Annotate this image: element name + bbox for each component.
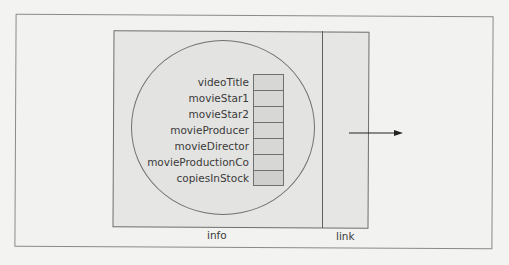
field-label: movieStar2	[189, 108, 253, 120]
field-cell	[253, 154, 284, 170]
field-label: videoTitle	[198, 76, 253, 88]
link-label: link	[336, 230, 355, 242]
field-cell	[253, 90, 284, 106]
field-row: copiesInStock	[140, 170, 284, 186]
field-cell	[253, 122, 284, 138]
field-row: movieStar1	[140, 90, 284, 106]
field-label: movieStar1	[189, 92, 253, 104]
arrow-right-icon	[349, 129, 405, 137]
field-label: copiesInStock	[176, 172, 253, 184]
field-row: movieProducer	[140, 122, 284, 138]
field-row: movieProductionCo	[140, 154, 284, 170]
field-cell	[253, 138, 284, 154]
field-row: movieStar2	[140, 106, 284, 122]
field-cell	[253, 106, 284, 122]
field-row: movieDirector	[140, 138, 284, 154]
video-fields: videoTitle movieStar1 movieStar2 moviePr…	[140, 74, 284, 186]
node-link-divider	[322, 31, 323, 228]
field-cell	[253, 170, 284, 186]
info-label: info	[207, 229, 227, 241]
field-label: movieProductionCo	[147, 156, 253, 168]
field-cell	[253, 74, 284, 90]
field-label: movieProducer	[170, 124, 253, 136]
field-row: videoTitle	[140, 74, 284, 90]
field-label: movieDirector	[175, 140, 253, 152]
